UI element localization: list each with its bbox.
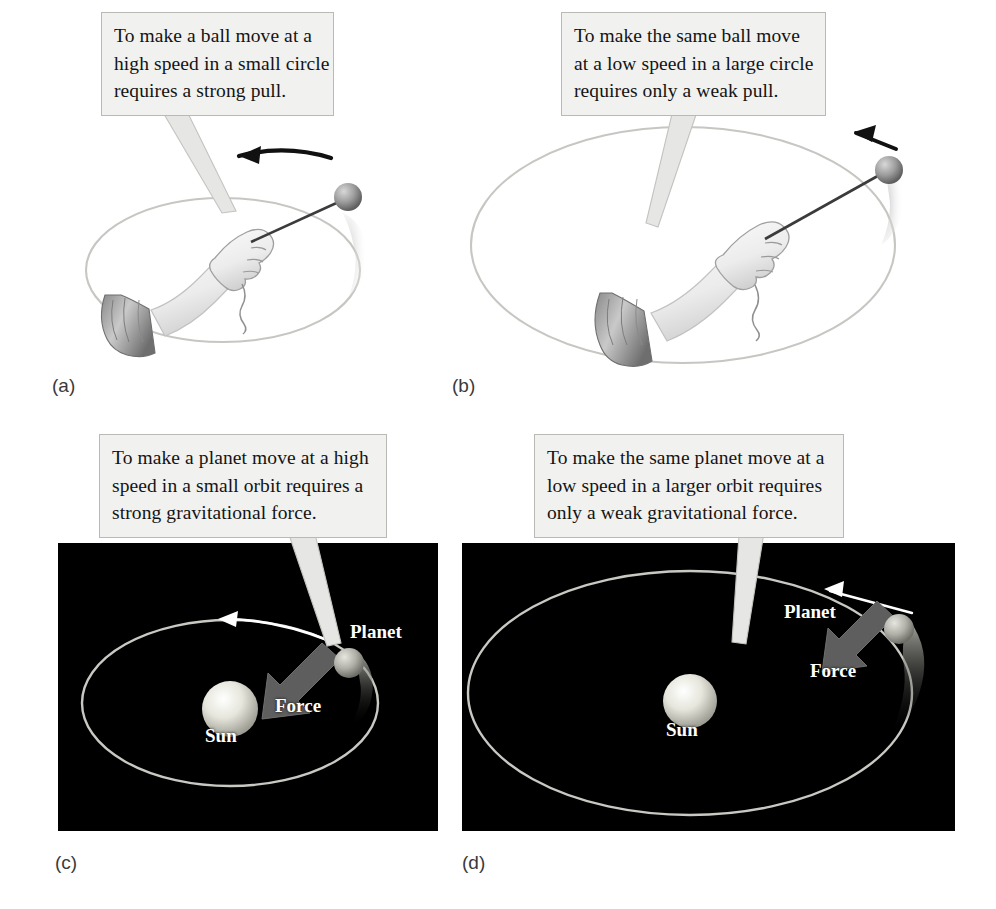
string-a — [251, 200, 343, 242]
velocity-arrowhead-c — [218, 611, 238, 627]
sun-label-d: Sun — [666, 719, 698, 741]
planet-c — [334, 648, 364, 678]
callout-d-line-3: only a weak gravitational force. — [547, 499, 831, 527]
callout-b-line-2: at a low speed in a large circle — [574, 50, 813, 78]
callout-a-line-2: high speed in a small circle — [114, 50, 321, 78]
velocity-arrowhead-d — [824, 581, 844, 597]
sun-label-c: Sun — [205, 725, 237, 747]
panel-b-letter: (b) — [452, 375, 475, 397]
panel-d-space-scene: Planet Force Sun — [462, 543, 955, 831]
string-loose-end-b — [752, 285, 759, 341]
callout-c-line-2: speed in a small orbit requires a — [112, 472, 374, 500]
callout-b-line-1: To make the same ball move — [574, 22, 813, 50]
hand-a — [210, 229, 274, 290]
panel-c-space-scene: Planet Force Sun — [58, 543, 438, 831]
callout-d-line-2: low speed in a larger orbit requires — [547, 472, 831, 500]
callout-a: To make a ball move at a high speed in a… — [101, 12, 334, 116]
callout-b: To make the same ball move at a low spee… — [561, 12, 826, 116]
callout-c-line-3: strong gravitational force. — [112, 499, 374, 527]
callout-c-line-1: To make a planet move at a high — [112, 444, 374, 472]
panel-b-illustration — [455, 115, 905, 370]
panel-c-letter: (c) — [55, 852, 77, 874]
callout-b-line-3: requires only a weak pull. — [574, 77, 813, 105]
callout-d: To make the same planet move at a low sp… — [534, 434, 844, 538]
force-label-c: Force — [275, 695, 321, 717]
panel-d-letter: (d) — [462, 852, 485, 874]
planet-d — [884, 614, 914, 644]
panel-a-letter: (a) — [52, 375, 75, 397]
callout-a-line-1: To make a ball move at a — [114, 22, 321, 50]
callout-a-line-3: requires a strong pull. — [114, 77, 321, 105]
motion-arrowhead-a — [239, 146, 261, 164]
force-label-d: Force — [810, 660, 856, 682]
ball-motion-trail-a — [342, 212, 367, 296]
planet-label-c: Planet — [350, 621, 402, 643]
callout-c: To make a planet move at a high speed in… — [99, 434, 387, 538]
ball-b — [875, 156, 903, 184]
ball-a — [334, 183, 362, 211]
panel-a-illustration — [55, 140, 385, 370]
string-loose-end-a — [240, 284, 246, 334]
planet-label-d: Planet — [784, 601, 836, 623]
figure-root: To make a ball move at a high speed in a… — [0, 0, 996, 909]
string-b — [765, 173, 883, 239]
sleeve-a — [101, 295, 155, 357]
callout-d-line-1: To make the same planet move at a — [547, 444, 831, 472]
velocity-arrow-c — [224, 619, 330, 641]
